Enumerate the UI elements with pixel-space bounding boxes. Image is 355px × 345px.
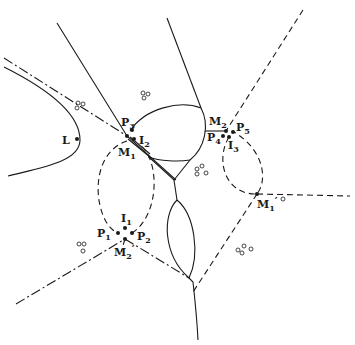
label-P5: P5 [236,121,250,136]
upper-right-dashed-line [226,10,303,131]
upper-left-dashdot-line [4,58,127,136]
label-I1: I1 [121,212,132,227]
point-P2 [130,231,134,235]
diagonal-solid-line [57,23,176,180]
point-I2 [132,137,136,141]
lower-lens-right-arc [177,200,195,278]
point-M2-bottom [123,237,127,241]
label-M1-prime: M1′ [257,195,278,213]
point-P1 [116,231,120,235]
lower-lens-left-arc [167,200,189,278]
circle-cluster-4 [77,242,86,253]
point-M1 [125,134,129,138]
circle-cluster-2 [141,91,150,100]
label-P4: P4 [207,131,221,146]
label-M2-top: M2 [209,115,227,130]
label-I2: I2 [139,134,150,149]
upper-solid-line [167,18,201,108]
lower-left-dashdot-line [16,239,125,304]
point-P5 [231,130,235,134]
label-I3: I3 [228,139,239,154]
upper-lens-top-arc [130,105,201,131]
lower-right-dashed-line [193,194,257,292]
point-P4 [221,134,225,138]
upper-lens-right-arc [190,108,205,160]
label-L: L [62,134,70,147]
label-M2-bottom: M2′ [114,243,135,261]
point-L [75,137,79,141]
label-M1: M1 [118,146,136,161]
right-dashed-line [257,194,350,196]
left-solid-curve [4,67,80,176]
point-M1-prime [255,192,259,196]
label-P3: P3 [121,116,135,131]
circle-cluster-5 [236,244,253,255]
geometric-diagram: L P3 I2 M1 M2 P5 P4 I3 M1′ I1 P1 P2 M2′ [0,0,355,345]
circle-cluster-3 [195,164,208,176]
label-P2: P2 [137,230,151,245]
stem-line [174,180,177,200]
circle-cluster-6 [281,197,285,201]
label-P1: P1 [97,227,111,242]
